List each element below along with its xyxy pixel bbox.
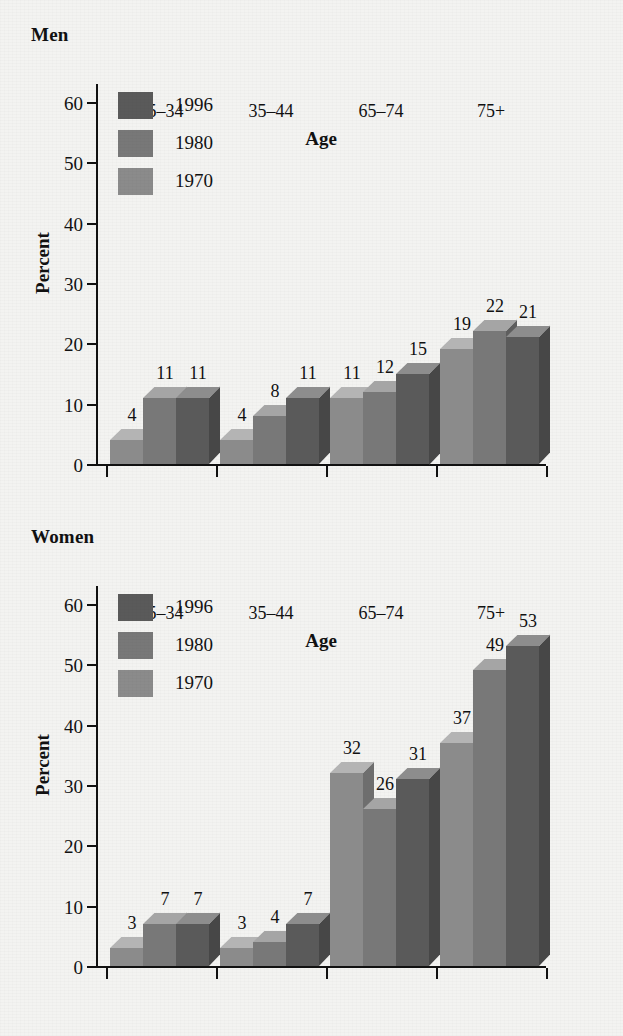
bar-1996-75+ <box>506 646 539 966</box>
legend-swatch-icon <box>118 632 153 659</box>
x-axis-line <box>96 966 546 968</box>
bar-value-label: 3 <box>128 913 137 934</box>
panel-title-women: Women <box>31 526 94 548</box>
legend-item-1970[interactable]: 1970 <box>118 664 213 702</box>
y-axis-tick-label: 10 <box>64 897 83 916</box>
bar-1996-65-74 <box>396 374 429 465</box>
x-axis-tick-label: 35–44 <box>249 101 294 122</box>
y-axis-tick <box>87 845 96 847</box>
bar-1996-75+ <box>506 337 539 464</box>
bar-front-face <box>176 924 209 966</box>
y-axis-line <box>96 586 98 968</box>
bar-front-face <box>363 809 396 966</box>
bar-front-face <box>220 440 253 464</box>
x-axis-tick-label: 65–74 <box>359 101 404 122</box>
bar-1996-35-44 <box>286 924 319 966</box>
bar-front-face <box>286 924 319 966</box>
x-axis-tick <box>106 466 108 477</box>
bar-value-label: 8 <box>271 381 280 402</box>
x-axis-tick <box>546 968 548 979</box>
bar-front-face <box>176 398 209 464</box>
bar-value-label: 7 <box>304 889 313 910</box>
bar-value-label: 4 <box>271 907 280 928</box>
bar-front-face <box>473 670 506 966</box>
bar-front-face <box>286 398 319 464</box>
bar-side-face <box>539 326 550 464</box>
y-axis-tick <box>87 604 96 606</box>
legend-item-1996[interactable]: 1996 <box>118 588 213 626</box>
bar-value-label: 7 <box>161 889 170 910</box>
y-axis-tick <box>87 966 96 968</box>
x-axis-title: Age <box>305 630 337 652</box>
legend-item-label: 1980 <box>175 132 213 154</box>
bar-1996-25-34 <box>176 924 209 966</box>
y-axis-tick-label: 60 <box>64 94 83 113</box>
legend-swatch-icon <box>118 92 153 119</box>
bar-front-face <box>396 779 429 966</box>
bar-side-face <box>209 386 220 464</box>
bar-1980-35-44 <box>253 416 286 464</box>
bar-value-label: 22 <box>486 296 504 317</box>
bar-front-face <box>253 416 286 464</box>
bar-1970-75+ <box>440 349 473 464</box>
y-axis-tick <box>87 223 96 225</box>
bar-value-label: 12 <box>376 357 394 378</box>
legend-swatch-icon <box>118 168 153 195</box>
chart-page: { "colors": { "background": "#f3f3f1", "… <box>0 0 623 1036</box>
legend: 199619801970 <box>118 588 213 702</box>
y-axis-tick <box>87 162 96 164</box>
bar-value-label: 31 <box>409 744 427 765</box>
bar-value-label: 37 <box>453 708 471 729</box>
bar-front-face <box>110 948 143 966</box>
x-axis-tick <box>216 466 218 477</box>
bar-1980-65-74 <box>363 809 396 966</box>
bar-1980-75+ <box>473 670 506 966</box>
y-axis-tick <box>87 283 96 285</box>
x-axis-line <box>96 464 546 466</box>
bar-value-label: 21 <box>519 302 537 323</box>
bar-front-face <box>440 349 473 464</box>
bar-value-label: 26 <box>376 774 394 795</box>
chart-panel-women: Women Percent Age 010203040506025–343773… <box>0 520 623 1036</box>
bar-front-face <box>110 440 143 464</box>
bar-front-face <box>143 398 176 464</box>
y-axis-tick <box>87 404 96 406</box>
bar-1970-35-44 <box>220 948 253 966</box>
x-axis-tick-label: 35–44 <box>249 603 294 624</box>
y-axis-tick-label: 40 <box>64 716 83 735</box>
bar-value-label: 11 <box>189 363 206 384</box>
bar-value-label: 7 <box>194 889 203 910</box>
bar-1996-25-34 <box>176 398 209 464</box>
y-axis-tick <box>87 464 96 466</box>
legend-swatch-icon <box>118 130 153 157</box>
x-axis-tick <box>436 968 438 979</box>
y-axis-title: Percent <box>32 232 54 294</box>
y-axis-tick-label: 20 <box>64 837 83 856</box>
y-axis-tick-label: 60 <box>64 596 83 615</box>
bar-value-label: 11 <box>156 363 173 384</box>
bar-value-label: 49 <box>486 635 504 656</box>
chart-panel-men: Men Percent Age 010203040506025–34411113… <box>0 0 623 520</box>
bar-value-label: 32 <box>343 738 361 759</box>
bar-1980-65-74 <box>363 392 396 464</box>
bar-value-label: 11 <box>343 363 360 384</box>
legend-swatch-icon <box>118 670 153 697</box>
bar-value-label: 4 <box>238 405 247 426</box>
bar-1970-75+ <box>440 743 473 966</box>
legend-item-1980[interactable]: 1980 <box>118 124 213 162</box>
legend-item-1970[interactable]: 1970 <box>118 162 213 200</box>
legend-item-label: 1996 <box>175 596 213 618</box>
bar-1970-65-74 <box>330 773 363 966</box>
legend-item-1996[interactable]: 1996 <box>118 86 213 124</box>
bar-front-face <box>330 398 363 464</box>
bar-1970-25-34 <box>110 440 143 464</box>
bar-front-face <box>363 392 396 464</box>
x-axis-title: Age <box>305 128 337 150</box>
y-axis-tick-label: 30 <box>64 777 83 796</box>
y-axis-tick-label: 30 <box>64 275 83 294</box>
bar-1970-65-74 <box>330 398 363 464</box>
x-axis-tick <box>546 466 548 477</box>
legend-item-label: 1980 <box>175 634 213 656</box>
y-axis-tick-label: 50 <box>64 154 83 173</box>
legend-item-1980[interactable]: 1980 <box>118 626 213 664</box>
